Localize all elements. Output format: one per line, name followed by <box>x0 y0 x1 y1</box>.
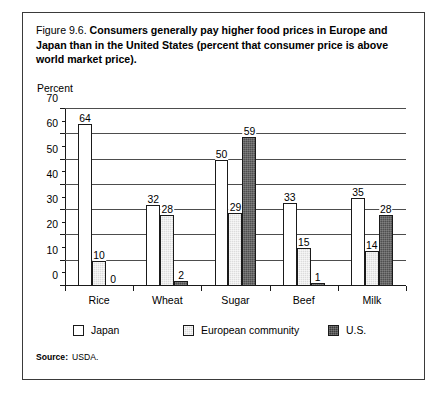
x-axis-category-label: Beef <box>293 294 315 306</box>
bar-wheat-japan[interactable]: 32 <box>146 205 160 286</box>
bar-wheat-u-s[interactable]: 2 <box>174 281 188 286</box>
bar-sugar-european-community[interactable]: 29 <box>228 213 242 286</box>
x-tick <box>65 286 66 291</box>
y-tick-label: 10 <box>46 244 58 255</box>
bar-milk-u-s[interactable]: 28 <box>379 215 393 286</box>
bar-beef-european-community[interactable]: 15 <box>297 248 311 286</box>
bar-value-label: 0 <box>109 274 117 285</box>
x-tick <box>133 286 134 291</box>
bar-group: 502959Sugar <box>201 109 269 286</box>
bar-value-label: 32 <box>147 194 161 205</box>
source-value: USDA. <box>72 352 98 362</box>
y-tick-label: 30 <box>46 194 58 205</box>
legend-label: U.S. <box>346 325 366 336</box>
y-tick-label: 0 <box>52 270 58 281</box>
x-tick <box>338 286 339 291</box>
y-tick-label: 20 <box>46 219 58 230</box>
x-axis-category-label: Sugar <box>221 294 249 306</box>
x-axis-category-label: Wheat <box>152 294 183 306</box>
bar-value-label: 10 <box>92 250 106 261</box>
bar-group: 64100Rice <box>65 109 133 286</box>
legend-item-japan[interactable]: Japan <box>73 325 119 336</box>
y-tick-label: 50 <box>46 143 58 154</box>
bar-rice-european-community[interactable]: 10 <box>92 261 106 286</box>
bar-wheat-european-community[interactable]: 28 <box>160 215 174 286</box>
bar-value-label: 33 <box>283 192 297 203</box>
x-axis-category-label: Rice <box>88 294 109 306</box>
bar-value-label: 1 <box>314 272 322 283</box>
bar-value-label: 2 <box>177 270 185 281</box>
bar-milk-japan[interactable]: 35 <box>351 198 365 287</box>
source-label: Source: <box>36 352 68 362</box>
bar-value-label: 15 <box>297 237 311 248</box>
legend-item-u-s[interactable]: U.S. <box>328 325 366 336</box>
legend-swatch-icon <box>183 325 194 336</box>
bar-beef-u-s[interactable]: 1 <box>311 283 325 286</box>
bar-rice-japan[interactable]: 64 <box>78 124 92 286</box>
plot-area: 010203040506070 64100Rice32282Wheat50295… <box>65 109 406 286</box>
legend-item-european-community[interactable]: European community <box>183 325 299 336</box>
bar-value-label: 28 <box>379 204 393 215</box>
legend-swatch-icon <box>328 325 339 336</box>
y-tick-label: 70 <box>46 93 58 104</box>
bar-milk-european-community[interactable]: 14 <box>365 251 379 286</box>
source-note: Source:USDA. <box>36 352 98 362</box>
x-axis-category-label: Milk <box>362 294 381 306</box>
y-tick-label: 40 <box>46 168 58 179</box>
legend-label: European community <box>201 325 299 336</box>
y-tick-label: 60 <box>46 118 58 129</box>
chart-legend: JapanEuropean communityU.S. <box>73 323 403 337</box>
bar-value-label: 29 <box>229 202 243 213</box>
figure-frame: Figure 9.6. Consumers generally pay high… <box>22 12 425 380</box>
bar-group: 33151Beef <box>270 109 338 286</box>
legend-swatch-icon <box>73 325 84 336</box>
bar-beef-japan[interactable]: 33 <box>283 203 297 286</box>
x-tick <box>406 286 407 291</box>
bar-sugar-u-s[interactable]: 59 <box>242 137 256 286</box>
bar-value-label: 28 <box>160 204 174 215</box>
bar-value-label: 14 <box>365 240 379 251</box>
bar-group: 32282Wheat <box>133 109 201 286</box>
bar-value-label: 50 <box>215 149 229 160</box>
bar-group: 351428Milk <box>338 109 406 286</box>
x-tick <box>201 286 202 291</box>
legend-label: Japan <box>91 325 119 336</box>
bar-value-label: 35 <box>351 187 365 198</box>
bar-sugar-japan[interactable]: 50 <box>215 160 229 286</box>
bar-value-label: 64 <box>78 113 92 124</box>
bar-value-label: 59 <box>243 126 257 137</box>
x-tick <box>270 286 271 291</box>
